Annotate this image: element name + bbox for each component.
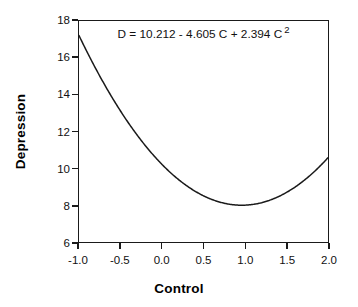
x-axis-tick-label-1: -0.5 bbox=[110, 254, 130, 267]
y-axis-tick-label-2: 10 bbox=[40, 162, 70, 175]
chart-figure: Depression 681012141618 -1.0-0.50.00.51.… bbox=[0, 0, 358, 307]
x-axis-tick-label-5: 1.5 bbox=[279, 254, 295, 267]
y-axis-tick-label-3: 12 bbox=[40, 125, 70, 138]
y-axis-tick-label-1: 8 bbox=[40, 199, 70, 212]
y-axis-tick-label-5: 16 bbox=[40, 51, 70, 64]
y-axis-title: Depression bbox=[14, 94, 29, 170]
y-axis-tick-label-0: 6 bbox=[40, 237, 70, 250]
x-axis-tick-2 bbox=[161, 243, 163, 249]
y-axis-tick-label-6: 18 bbox=[40, 14, 70, 27]
regression-equation-exponent: 2 bbox=[284, 24, 289, 35]
x-axis-title: Control bbox=[0, 281, 358, 296]
fitted-quadratic-curve bbox=[79, 36, 328, 206]
x-axis-tick-1 bbox=[119, 243, 121, 249]
x-axis-tick-4 bbox=[245, 243, 247, 249]
x-axis-tick-label-0: -1.0 bbox=[68, 254, 88, 267]
y-axis-tick-label-4: 14 bbox=[40, 88, 70, 101]
x-axis-tick-3 bbox=[203, 243, 205, 249]
plot-area bbox=[78, 20, 329, 243]
x-axis-tick-label-4: 1.0 bbox=[237, 254, 253, 267]
x-axis-tick-label-6: 2.0 bbox=[321, 254, 337, 267]
x-axis-tick-0 bbox=[77, 243, 79, 249]
x-axis-tick-5 bbox=[286, 243, 288, 249]
regression-equation-base: D = 10.212 - 4.605 C + 2.394 C bbox=[118, 27, 283, 41]
regression-equation-annotation: D = 10.212 - 4.605 C + 2.394 C2 bbox=[78, 27, 329, 41]
y-axis-title-container: Depression bbox=[10, 0, 32, 263]
x-axis-tick-label-2: 0.0 bbox=[154, 254, 170, 267]
curve-svg bbox=[79, 21, 328, 242]
x-axis-tick-label-3: 0.5 bbox=[196, 254, 212, 267]
x-axis-tick-6 bbox=[328, 243, 330, 249]
